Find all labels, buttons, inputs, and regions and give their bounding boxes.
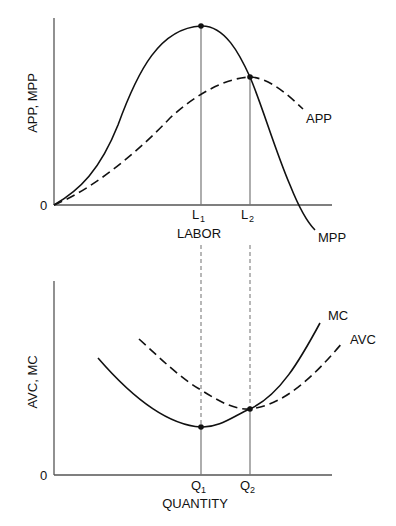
mpp-app-intersection-point xyxy=(247,74,253,80)
svg-text:2: 2 xyxy=(250,485,255,495)
bottom-origin-label: 0 xyxy=(40,468,47,483)
mpp-curve xyxy=(54,26,315,230)
mc-avc-intersection-point xyxy=(247,406,253,412)
bottom-x-axis-label: QUANTITY xyxy=(162,496,228,511)
tick-l2: L 2 xyxy=(241,207,254,224)
bottom-y-axis-label: AVC, MC xyxy=(25,355,40,408)
mc-curve xyxy=(98,323,320,427)
svg-text:Q: Q xyxy=(240,478,250,493)
svg-text:1: 1 xyxy=(201,485,206,495)
production-cost-figure: 0 APP, MPP APP MPP L 1 L 2 LABOR 0 AVC, … xyxy=(0,0,396,526)
tick-q1: Q 1 xyxy=(191,478,206,495)
svg-text:1: 1 xyxy=(200,214,205,224)
avc-label: AVC xyxy=(350,332,376,347)
app-curve xyxy=(54,77,303,205)
svg-text:L: L xyxy=(241,207,248,222)
mpp-label: MPP xyxy=(318,230,346,245)
top-x-axis-label: LABOR xyxy=(177,226,221,241)
mc-label: MC xyxy=(328,308,348,323)
mpp-max-point xyxy=(198,23,204,29)
avc-curve xyxy=(139,339,343,409)
bottom-chart: 0 AVC, MC MC AVC Q 1 Q 2 QUANTITY xyxy=(25,281,376,511)
top-y-axis-label: APP, MPP xyxy=(25,73,40,133)
top-origin-label: 0 xyxy=(40,198,47,213)
svg-text:L: L xyxy=(192,207,199,222)
tick-l1: L 1 xyxy=(192,207,205,224)
svg-text:Q: Q xyxy=(191,478,201,493)
tick-q2: Q 2 xyxy=(240,478,255,495)
svg-text:2: 2 xyxy=(249,214,254,224)
top-chart: 0 APP, MPP APP MPP L 1 L 2 LABOR xyxy=(25,18,346,245)
mc-min-point xyxy=(198,424,204,430)
app-label: APP xyxy=(306,111,332,126)
